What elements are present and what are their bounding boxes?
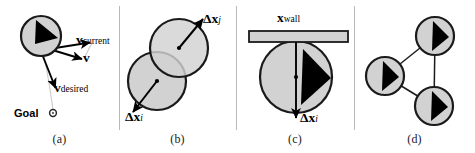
label-v: v <box>83 51 90 65</box>
label-v-desired-subscript: desired <box>61 84 88 94</box>
agent-j-center-dot <box>177 46 181 50</box>
wall-rect <box>249 31 348 42</box>
label-v-current: vcurrent <box>76 33 110 47</box>
label-x-wall: xwall <box>277 11 300 25</box>
label-v-desired: vdesired <box>54 81 88 95</box>
label-v-current-symbol: v <box>76 32 83 47</box>
agent-i-center-dot <box>155 79 159 83</box>
label-dx-j: Δxj <box>203 12 221 26</box>
label-dx-i-subscript: i <box>140 113 143 123</box>
label-v-symbol: v <box>83 50 90 65</box>
figure-panel-group: vcurrent v vdesired Goal (a) <box>0 0 475 153</box>
panel-d-label: (d) <box>354 132 475 147</box>
label-dx-j-subscript: j <box>218 15 221 25</box>
label-v-current-subscript: current <box>83 36 110 46</box>
label-x-wall-symbol: x <box>277 10 284 25</box>
agent-circle-top <box>416 17 454 55</box>
label-dx-i-symbol: Δx <box>125 109 140 124</box>
panel-a-graphics <box>0 0 119 153</box>
agent-center-dot <box>294 75 298 79</box>
agent-circle <box>21 16 61 56</box>
label-dx-i-subscript: i <box>315 114 318 124</box>
panel-a: vcurrent v vdesired Goal (a) <box>0 0 119 153</box>
label-v-desired-symbol: v <box>54 80 61 95</box>
panel-d-graphics <box>354 0 475 153</box>
agent-circle-bottom <box>415 87 453 125</box>
panel-c-label: (c) <box>236 132 354 147</box>
panel-a-label: (a) <box>0 132 119 147</box>
panel-b-label: (b) <box>119 132 236 147</box>
label-dx-i-symbol: Δx <box>300 110 315 125</box>
label-dx-i: Δxi <box>125 110 143 124</box>
panel-b: Δxj Δxi (b) <box>119 0 236 153</box>
label-x-wall-subscript: wall <box>284 14 300 24</box>
panel-d: (d) <box>354 0 475 153</box>
label-dx-j-symbol: Δx <box>203 11 218 26</box>
agent-circle-left <box>366 57 404 95</box>
panel-c: xwall Δxi (c) <box>236 0 354 153</box>
label-dx-i: Δxi <box>300 111 318 125</box>
goal-marker <box>50 110 57 117</box>
label-goal: Goal <box>14 107 38 119</box>
